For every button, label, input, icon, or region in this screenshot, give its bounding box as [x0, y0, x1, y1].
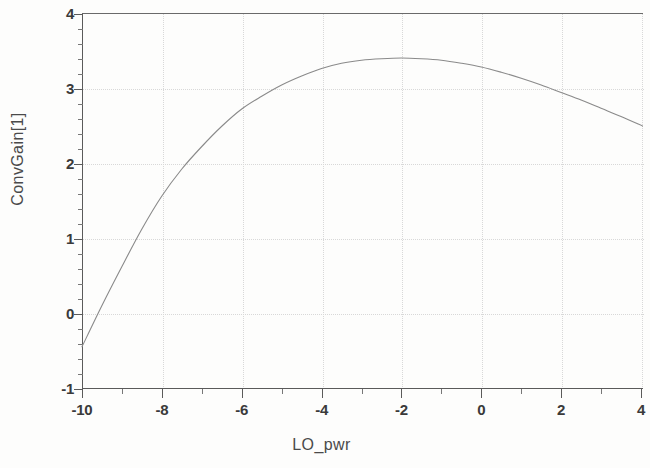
x-axis-title: LO_pwr: [0, 436, 643, 454]
y-tick-minor: [78, 29, 83, 30]
y-tick-minor: [78, 269, 83, 270]
y-tick-minor: [78, 299, 83, 300]
y-tick-minor: [78, 194, 83, 195]
y-tick-minor: [78, 224, 83, 225]
x-tick-major: [162, 389, 163, 398]
y-tick-minor: [78, 209, 83, 210]
y-tick-minor: [78, 359, 83, 360]
x-tick-minor: [441, 389, 442, 394]
gridline-horizontal: [83, 239, 644, 240]
y-tick-minor: [78, 134, 83, 135]
x-tick-minor: [282, 389, 283, 394]
y-tick-major: [74, 314, 83, 315]
y-tick-minor: [78, 284, 83, 285]
x-axis-ticks: [82, 389, 643, 401]
y-tick-minor: [78, 179, 83, 180]
y-tick-label: 3: [66, 81, 74, 96]
x-tick-label: 4: [616, 402, 650, 417]
y-tick-minor: [78, 104, 83, 105]
x-tick-label: 2: [536, 402, 586, 417]
x-tick-label: -4: [297, 402, 347, 417]
x-tick-major: [322, 389, 323, 398]
gridline-vertical: [163, 14, 164, 389]
gridline-vertical: [243, 14, 244, 389]
y-tick-label: 2: [66, 156, 74, 171]
x-tick-label: -10: [57, 402, 107, 417]
y-tick-major: [74, 239, 83, 240]
y-tick-minor: [78, 149, 83, 150]
y-tick-minor: [78, 59, 83, 60]
x-tick-minor: [521, 389, 522, 394]
y-tick-minor: [78, 74, 83, 75]
y-tick-minor: [78, 254, 83, 255]
x-tick-major: [561, 389, 562, 398]
y-tick-minor: [78, 374, 83, 375]
x-tick-major: [82, 389, 83, 398]
gridline-vertical: [402, 14, 403, 389]
gridline-horizontal: [83, 89, 644, 90]
x-tick-label: -8: [137, 402, 187, 417]
x-tick-major: [242, 389, 243, 398]
gridline-vertical: [323, 14, 324, 389]
y-tick-major: [74, 89, 83, 90]
x-tick-major: [641, 389, 642, 398]
gridline-horizontal: [83, 164, 644, 165]
y-tick-minor: [78, 329, 83, 330]
x-tick-minor: [202, 389, 203, 394]
y-tick-minor: [78, 119, 83, 120]
gridline-vertical: [482, 14, 483, 389]
x-tick-major: [401, 389, 402, 398]
y-tick-major: [74, 14, 83, 15]
y-tick-minor: [78, 344, 83, 345]
x-tick-major: [481, 389, 482, 398]
x-tick-minor: [122, 389, 123, 394]
gridline-vertical: [562, 14, 563, 389]
y-axis-title: ConvGain[1]: [9, 79, 27, 239]
y-tick-label: 1: [66, 231, 74, 246]
y-tick-label: 4: [66, 6, 74, 21]
y-tick-minor: [78, 44, 83, 45]
y-tick-label: 0: [66, 306, 74, 321]
gridline-vertical: [642, 14, 643, 389]
x-tick-label: 0: [456, 402, 506, 417]
y-tick-major: [74, 164, 83, 165]
x-tick-minor: [362, 389, 363, 394]
x-axis-tick-labels: -10-8-6-4-2024: [0, 402, 643, 424]
x-tick-label: -2: [376, 402, 426, 417]
gridline-horizontal: [83, 314, 644, 315]
plot-area: [82, 13, 643, 388]
x-tick-minor: [601, 389, 602, 394]
x-tick-label: -6: [217, 402, 267, 417]
y-tick-label: -1: [61, 381, 74, 396]
